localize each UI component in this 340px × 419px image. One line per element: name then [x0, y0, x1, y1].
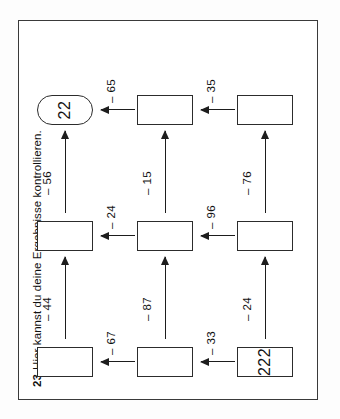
exercise-frame: 23 Hier kannst du deine Ergebnisse kontr…: [18, 20, 318, 400]
flow-box-start[interactable]: 222: [237, 347, 293, 377]
flow-box-value: 22: [56, 101, 74, 120]
rotated-content: 23 Hier kannst du deine Ergebnisse kontr…: [19, 21, 319, 401]
arrow-label-up-right-2: – 65: [105, 79, 117, 103]
flow-box-r1c3[interactable]: [237, 95, 293, 125]
arrow-label-up-mid-1: – 96: [205, 205, 217, 229]
arrow-label-up-mid-2: – 24: [105, 205, 117, 229]
flow-box-r2c2[interactable]: [137, 221, 193, 251]
arrow-label-up-left-2: – 67: [105, 331, 117, 355]
arrow-label-up-right-1: – 35: [205, 79, 217, 103]
arrow-label-top-2: – 56: [41, 171, 53, 195]
page-canvas: 23 Hier kannst du deine Ergebnisse kontr…: [0, 0, 340, 419]
flow-box-r3c2[interactable]: [37, 221, 93, 251]
arrow-label-bottom-2: – 76: [241, 171, 253, 195]
arrow-label-top-1: – 44: [41, 297, 53, 321]
flow-box-r2c1[interactable]: [137, 347, 193, 377]
arrow-label-middle-2: – 15: [141, 171, 153, 195]
arrow-label-middle-1: – 87: [141, 297, 153, 321]
arrow-label-up-left-1: – 33: [205, 331, 217, 355]
flow-box-r2c3[interactable]: [137, 95, 193, 125]
arrow-label-bottom-1: – 24: [241, 297, 253, 321]
flow-box-value: 222: [256, 348, 274, 376]
flow-box-r1c2[interactable]: [237, 221, 293, 251]
flow-box-r3c1[interactable]: [37, 347, 93, 377]
flow-box-result[interactable]: 22: [37, 95, 93, 125]
